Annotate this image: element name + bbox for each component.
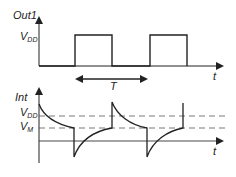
int-plot: Int VDD VM t [15, 89, 225, 163]
out1-t-label: t [213, 70, 217, 82]
timing-diagram: Out1 VDD t T Int VDD VM t [0, 0, 236, 177]
out1-vdd-label: VDD [20, 30, 37, 43]
int-vm-label: VM [20, 120, 33, 133]
out1-label: Out1 [13, 9, 37, 21]
int-label: Int [15, 91, 28, 103]
int-t-label: t [213, 145, 217, 157]
out1-square-wave [39, 35, 187, 66]
int-waveform [39, 102, 183, 157]
int-vdd-label: VDD [20, 106, 37, 119]
out1-plot: Out1 VDD t T [13, 9, 222, 92]
period-label: T [110, 80, 118, 92]
